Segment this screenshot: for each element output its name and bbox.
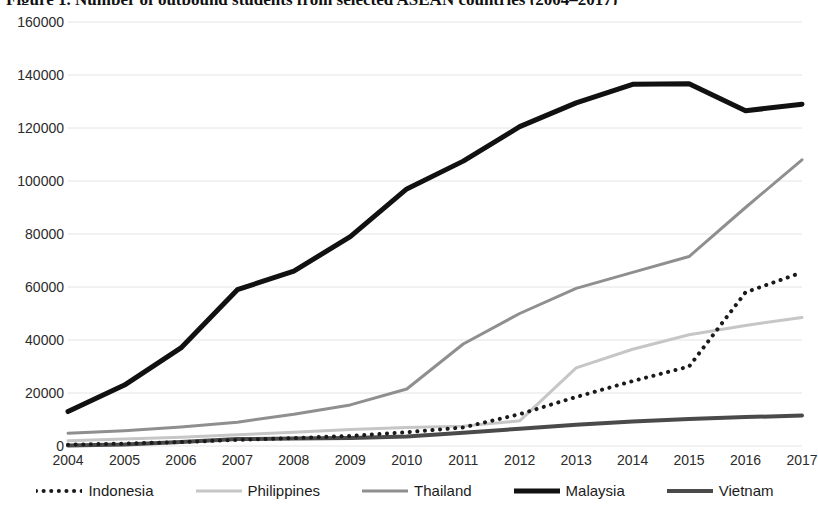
y-axis-tick-label: 0 bbox=[2, 439, 64, 453]
y-axis-tick-label: 80000 bbox=[2, 227, 64, 241]
x-axis-tick-label: 2016 bbox=[730, 452, 761, 468]
series-line-malaysia bbox=[68, 84, 802, 412]
y-axis-tick-label: 120000 bbox=[2, 121, 64, 135]
y-axis-tick-label: 60000 bbox=[2, 280, 64, 294]
x-axis-tick-label: 2013 bbox=[561, 452, 592, 468]
series-line-philippines bbox=[68, 317, 802, 440]
legend-label: Indonesia bbox=[88, 482, 153, 499]
legend-label: Thailand bbox=[414, 482, 472, 499]
x-axis-tick-label: 2005 bbox=[109, 452, 140, 468]
y-axis-tick-label: 160000 bbox=[2, 15, 64, 29]
x-axis-tick-label: 2010 bbox=[391, 452, 422, 468]
legend-item-malaysia[interactable]: Malaysia bbox=[514, 482, 625, 499]
legend-item-vietnam[interactable]: Vietnam bbox=[667, 482, 774, 499]
x-axis-tick-label: 2007 bbox=[222, 452, 253, 468]
black-line-swatch bbox=[514, 485, 560, 497]
legend-item-philippines[interactable]: Philippines bbox=[196, 482, 321, 499]
y-axis-tick-label: 140000 bbox=[2, 68, 64, 82]
legend-label: Philippines bbox=[248, 482, 321, 499]
legend-item-indonesia[interactable]: Indonesia bbox=[36, 482, 153, 499]
chart-legend: IndonesiaPhilippinesThailandMalaysiaViet… bbox=[0, 482, 810, 499]
x-axis-tick-label: 2004 bbox=[52, 452, 83, 468]
chart-title: Figure 1. Number of outbound students fr… bbox=[0, 0, 810, 5]
legend-label: Vietnam bbox=[719, 482, 774, 499]
series-line-thailand bbox=[68, 160, 802, 433]
series-lines bbox=[68, 22, 802, 446]
series-line-vietnam bbox=[68, 416, 802, 446]
light-gray-line-swatch bbox=[196, 485, 242, 497]
x-axis-tick-label: 2011 bbox=[448, 452, 478, 468]
x-axis-tick-label: 2006 bbox=[165, 452, 196, 468]
x-axis-tick-label: 2009 bbox=[335, 452, 366, 468]
x-axis-tick-label: 2008 bbox=[278, 452, 309, 468]
legend-label: Malaysia bbox=[566, 482, 625, 499]
x-axis-tick-label: 2017 bbox=[786, 452, 817, 468]
x-axis-tick-label: 2015 bbox=[673, 452, 704, 468]
dark-gray-line-swatch bbox=[667, 485, 713, 497]
dotted-line-swatch bbox=[36, 485, 82, 497]
legend-item-thailand[interactable]: Thailand bbox=[362, 482, 472, 499]
y-axis-tick-label: 40000 bbox=[2, 333, 64, 347]
x-axis-tick-label: 2014 bbox=[617, 452, 648, 468]
y-axis-tick-label: 20000 bbox=[2, 386, 64, 400]
x-axis-tick-label: 2012 bbox=[504, 452, 535, 468]
y-axis-tick-label: 100000 bbox=[2, 174, 64, 188]
plot-area bbox=[68, 22, 802, 446]
medium-gray-line-swatch bbox=[362, 485, 408, 497]
